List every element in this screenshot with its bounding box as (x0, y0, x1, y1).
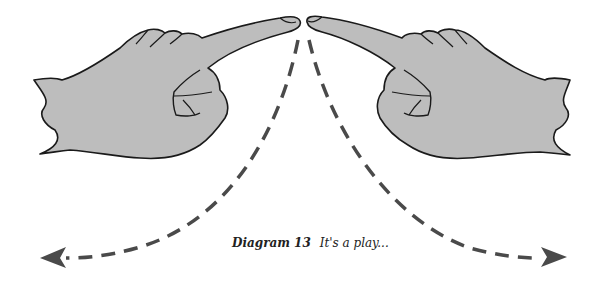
left-pointing-hand (34, 17, 300, 159)
caption-text: It's a play... (320, 236, 389, 250)
diagram-caption: Diagram 13 It's a play... (232, 236, 389, 250)
caption-label: Diagram 13 (232, 236, 311, 250)
